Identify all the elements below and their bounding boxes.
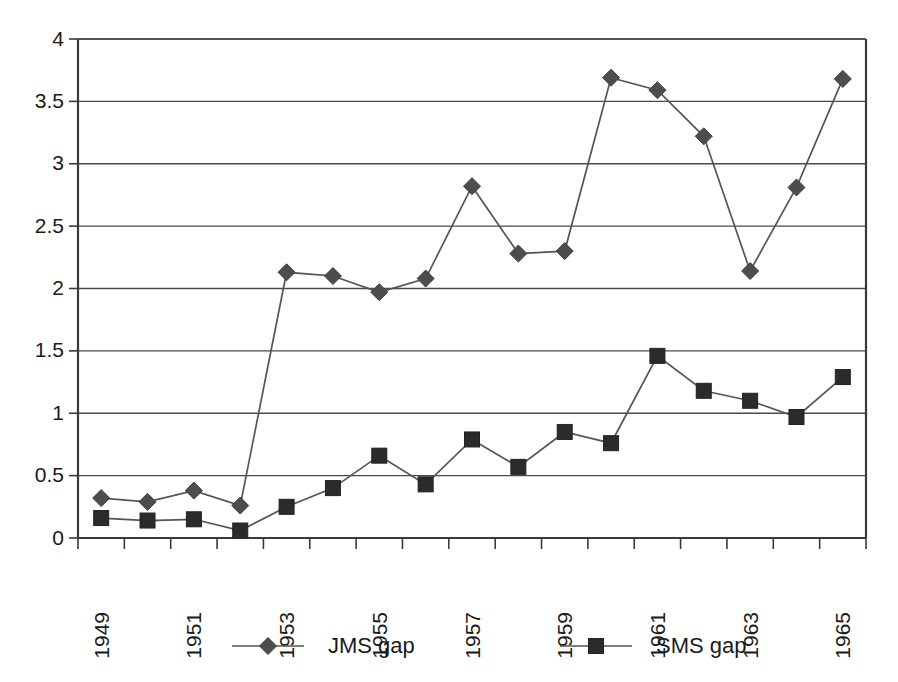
y-axis-tick-label: 3.5 [35, 89, 64, 112]
data-point-marker [604, 436, 619, 451]
x-axis-tick-label: 1965 [831, 612, 854, 659]
data-point-marker [186, 512, 201, 527]
data-point-marker [94, 511, 109, 526]
chart-container: 00.511.522.533.54 1949195119531955195719… [0, 0, 898, 682]
data-point-marker [696, 383, 711, 398]
legend-label: SMS gap [656, 633, 747, 658]
x-axis-tick-label: 1957 [461, 612, 484, 659]
chart-background [0, 0, 898, 682]
x-axis-tick-label: 1959 [553, 612, 576, 659]
x-axis-tick-label: 1949 [90, 612, 113, 659]
data-point-marker [835, 370, 850, 385]
legend-label: JMS gap [328, 633, 415, 658]
y-axis-tick-label: 2.5 [35, 214, 64, 237]
data-point-marker [140, 513, 155, 528]
y-axis-tick-label: 4 [52, 27, 64, 50]
data-point-marker [511, 459, 526, 474]
x-axis-tick-label: 1953 [275, 612, 298, 659]
y-axis-tick-label: 2 [52, 276, 64, 299]
data-point-marker [372, 448, 387, 463]
data-point-marker [233, 523, 248, 538]
y-axis-tick-label: 3 [52, 151, 64, 174]
y-axis-tick-label: 0.5 [35, 463, 64, 486]
data-point-marker [557, 424, 572, 439]
data-point-marker [743, 393, 758, 408]
data-point-marker [418, 477, 433, 492]
legend-marker-square-icon [589, 639, 604, 654]
x-axis-tick-label: 1951 [182, 612, 205, 659]
y-axis-tick-label: 1 [52, 401, 64, 424]
line-chart: 00.511.522.533.54 1949195119531955195719… [0, 0, 898, 682]
data-point-marker [279, 499, 294, 514]
y-axis-tick-label: 1.5 [35, 338, 64, 361]
y-axis-tick-label: 0 [52, 526, 64, 549]
data-point-marker [650, 348, 665, 363]
data-point-marker [465, 432, 480, 447]
data-point-marker [325, 481, 340, 496]
data-point-marker [789, 409, 804, 424]
